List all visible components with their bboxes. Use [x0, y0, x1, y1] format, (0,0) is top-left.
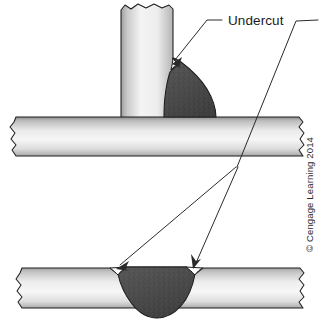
weld-defect-figure: Undercut © Cengage Learning 2014	[0, 0, 324, 330]
copyright-credit: © Cengage Learning 2014	[304, 137, 315, 252]
horizontal-plate-top	[10, 117, 304, 156]
undercut-illustration-svg: Undercut © Cengage Learning 2014	[0, 0, 324, 330]
undercut-label: Undercut	[228, 13, 284, 28]
